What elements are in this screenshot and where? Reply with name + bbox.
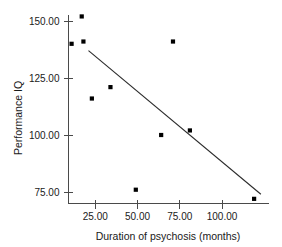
data-point <box>252 197 256 201</box>
x-tick-label: 75.00 <box>167 211 192 222</box>
tick-marks <box>64 21 223 209</box>
y-tick-label: 150.00 <box>29 16 60 27</box>
data-point <box>90 96 94 100</box>
data-point <box>188 128 192 132</box>
y-tick-labels: 75.00100.00125.00150.00 <box>29 16 60 198</box>
regression-line <box>88 51 260 195</box>
data-point <box>159 133 163 137</box>
data-points <box>69 14 256 201</box>
data-point <box>69 42 73 46</box>
data-point <box>171 39 175 43</box>
y-tick-label: 75.00 <box>34 187 59 198</box>
x-axis-title: Duration of psychosis (months) <box>96 230 241 242</box>
fit-line <box>88 51 260 195</box>
scatter-plot-figure: 75.00100.00125.00150.00 25.0050.0075.001… <box>0 0 282 247</box>
data-point <box>134 188 138 192</box>
data-point <box>108 85 112 89</box>
y-tick-label: 125.00 <box>29 73 60 84</box>
y-axis-title: Performance IQ <box>12 81 24 155</box>
data-point <box>80 14 84 18</box>
data-point <box>81 39 85 43</box>
y-tick-label: 100.00 <box>29 130 60 141</box>
plot-canvas: 75.00100.00125.00150.00 25.0050.0075.001… <box>0 0 282 247</box>
x-tick-labels: 25.0050.0075.00100.00 <box>83 211 238 222</box>
x-tick-label: 25.00 <box>83 211 108 222</box>
x-tick-label: 50.00 <box>125 211 150 222</box>
x-tick-label: 100.00 <box>207 211 238 222</box>
